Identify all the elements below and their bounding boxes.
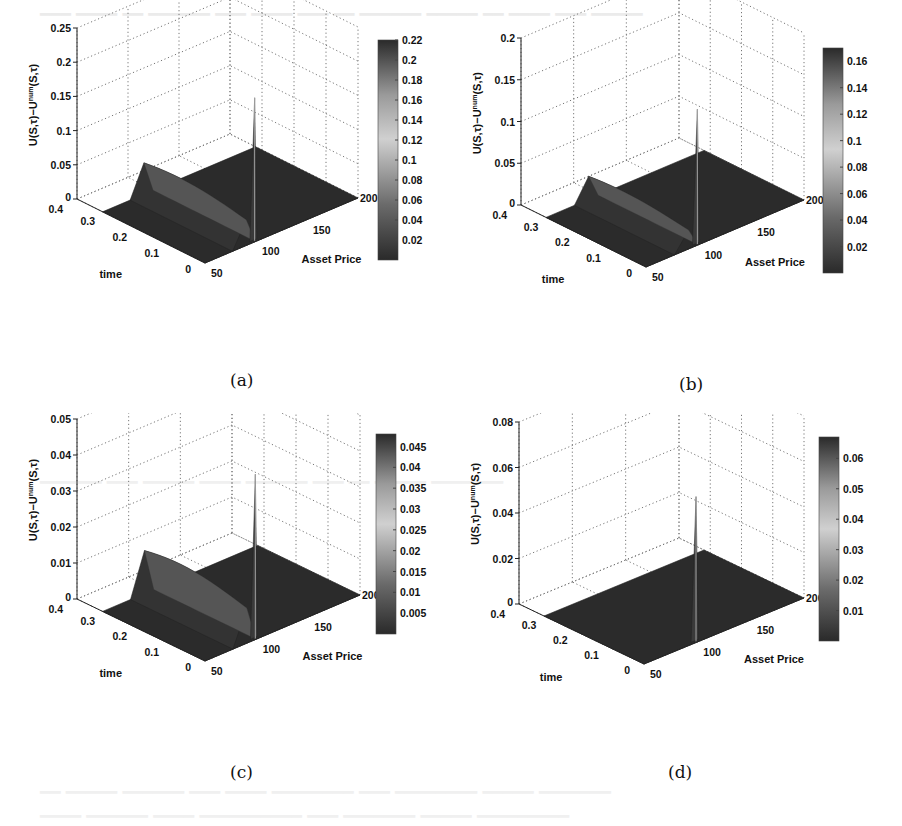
time-tick-label: 0.4 (492, 209, 507, 221)
z-tick-label: 0 (509, 197, 515, 209)
asset-tick-label: 50 (211, 267, 223, 279)
z-tick-label: 0.05 (51, 159, 72, 171)
z-tick-label: 0.1 (500, 116, 515, 128)
asset-tick-label: 150 (313, 224, 331, 236)
asset-tick-label: 50 (211, 665, 223, 677)
colorbar-tick-label: 0.05 (843, 483, 864, 495)
time-tick-label: 0 (626, 267, 632, 279)
colorbar-tick-label: 0.02 (400, 545, 421, 557)
surface (544, 497, 804, 664)
z-tick-label: 0.05 (51, 413, 72, 425)
time-tick-label: 0.2 (553, 634, 568, 646)
colorbar-tick-label: 0.12 (402, 134, 423, 146)
colorbar-tick-label: 0.005 (400, 607, 426, 619)
asset-axis-label: Asset Price (303, 650, 363, 662)
surface (546, 109, 804, 267)
svg-text:U(S,τ)−Unum(S,τ): U(S,τ)−Unum(S,τ) (27, 63, 39, 146)
colorbar-tick-label: 0.035 (400, 482, 426, 494)
z-tick-label: 0 (65, 191, 71, 203)
colorbar-tick-label: 0.1 (402, 154, 417, 166)
time-tick-label: 0.3 (524, 221, 539, 233)
colorbar-tick-label: 0.14 (402, 114, 423, 126)
time-tick-label: 0 (185, 661, 191, 673)
asset-tick-label: 50 (650, 668, 662, 680)
z-tick-label: 0.2 (500, 32, 515, 44)
svg-text:U(S,τ)−Unum(S,τ): U(S,τ)−Unum(S,τ) (469, 462, 481, 545)
colorbar-tick-label: 0.04 (400, 461, 421, 473)
asset-tick-label: 50 (652, 271, 664, 283)
z-tick-label: 0.02 (493, 553, 514, 565)
asset-tick-label: 100 (263, 643, 281, 655)
z-axis-label: U(S,τ)−Unum(S,τ) (469, 462, 481, 545)
z-tick-label: 0.02 (51, 521, 72, 533)
caption-c: (c) (230, 762, 253, 782)
colorbar-tick-label: 0.03 (843, 544, 864, 556)
z-tick-label: 0 (507, 596, 513, 608)
asset-tick-label: 150 (314, 621, 332, 633)
asset-tick-label: 100 (705, 249, 723, 261)
z-tick-label: 0.15 (495, 74, 516, 86)
time-tick-label: 0.1 (586, 252, 601, 264)
colorbar-tick-label: 0.06 (402, 194, 423, 206)
svg-text:U(S,τ)−Unum(S,τ): U(S,τ)−Unum(S,τ) (27, 458, 39, 541)
colorbar-tick-label: 0.04 (843, 513, 864, 525)
z-tick-label: 0.04 (493, 507, 514, 519)
caption-d: (d) (668, 762, 692, 782)
asset-tick-label: 100 (703, 646, 721, 658)
colorbar-tick-label: 0.14 (847, 82, 868, 94)
time-tick-label: 0.3 (80, 615, 95, 627)
asset-tick-label: 150 (757, 624, 775, 636)
z-tick-label: 0.08 (493, 416, 514, 428)
svg-text:U(S,τ)−Unum(S,τ): U(S,τ)−Unum(S,τ) (471, 72, 483, 155)
colorbar-tick-label: 0.04 (847, 214, 868, 226)
time-axis-label: time (99, 667, 122, 679)
z-tick-label: 0.25 (51, 22, 72, 34)
z-tick-label: 0.04 (51, 449, 72, 461)
time-tick-label: 0.1 (144, 247, 159, 259)
asset-tick-label: 100 (262, 245, 280, 257)
colorbar: 0.010.020.030.040.050.06 (819, 437, 864, 641)
time-tick-label: 0.2 (112, 630, 127, 642)
time-tick-label: 0.4 (48, 603, 63, 615)
z-axis-label: U(S,τ)−Unum(S,τ) (27, 458, 39, 541)
time-tick-label: 0.3 (80, 215, 95, 227)
time-tick-label: 0.1 (144, 646, 159, 658)
caption-a: (a) (230, 370, 253, 390)
z-tick-label: 0.15 (51, 90, 72, 102)
z-tick-label: 0.06 (493, 462, 514, 474)
colorbar: 0.020.040.060.080.10.120.140.16 (823, 48, 868, 273)
time-tick-label: 0.4 (490, 608, 505, 620)
z-axis-label: U(S,τ)−Unum(S,τ) (471, 72, 483, 155)
surface-plot-a: 00.050.10.150.20.2500.10.20.30.450100150… (0, 0, 451, 413)
time-axis-label: time (540, 671, 563, 683)
colorbar-tick-label: 0.08 (402, 174, 423, 186)
colorbar-tick-label: 0.01 (400, 586, 421, 598)
colorbar-tick-label: 0.22 (402, 34, 423, 46)
z-tick-label: 0 (65, 591, 71, 603)
time-tick-label: 0.2 (555, 236, 570, 248)
colorbar-tick-label: 0.025 (400, 524, 426, 536)
colorbar-tick-label: 0.02 (847, 241, 868, 253)
colorbar-tick-label: 0.045 (400, 441, 426, 453)
colorbar: 0.020.040.060.080.10.120.140.160.180.20.… (378, 34, 423, 260)
colorbar-tick-label: 0.04 (402, 214, 423, 226)
colorbar-tick-label: 0.015 (400, 566, 426, 578)
time-tick-label: 0.1 (584, 649, 599, 661)
colorbar-tick-label: 0.02 (843, 574, 864, 586)
time-tick-label: 0 (624, 664, 630, 676)
colorbar-tick-label: 0.18 (402, 74, 423, 86)
caption-b: (b) (679, 374, 703, 394)
colorbar-tick-label: 0.12 (847, 108, 868, 120)
time-tick-label: 0.2 (112, 231, 127, 243)
asset-axis-label: Asset Price (302, 253, 362, 265)
asset-axis-label: Asset Price (744, 653, 804, 665)
colorbar-tick-label: 0.08 (847, 161, 868, 173)
z-axis-label: U(S,τ)−Unum(S,τ) (27, 63, 39, 146)
asset-tick-label: 150 (757, 226, 775, 238)
z-tick-label: 0.05 (495, 157, 516, 169)
colorbar-tick-label: 0.16 (847, 55, 868, 67)
time-axis-label: time (99, 268, 122, 280)
colorbar-tick-label: 0.2 (402, 54, 417, 66)
z-tick-label: 0.01 (51, 557, 72, 569)
time-tick-label: 0 (185, 263, 191, 275)
